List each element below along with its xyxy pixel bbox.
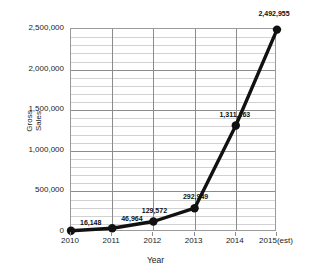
y-axis-title: GrossSales (25, 99, 43, 143)
y-axis-tick-label: 500,000 (35, 186, 64, 194)
data-point-marker (190, 204, 198, 212)
x-axis-tick-mark (276, 232, 277, 236)
gridline-minor (71, 224, 275, 225)
gridline-minor (71, 102, 275, 103)
gridline-major (71, 191, 275, 192)
x-axis-tick-label: 2010 (61, 236, 79, 245)
data-point-label: 2,492,955 (258, 10, 289, 17)
data-point-marker (149, 217, 157, 225)
y-axis-tick-label: 1,000,000 (28, 146, 64, 154)
x-axis-tick-label: 2014 (226, 236, 244, 245)
data-point-marker (273, 25, 281, 33)
x-axis-tick-mark (235, 232, 236, 236)
gridline-minor (71, 118, 275, 119)
gridline-minor (71, 78, 275, 79)
x-axis-tick-mark (70, 232, 71, 236)
y-axis-title-line2: Sales (34, 111, 43, 131)
x-axis-tick-label: 2013 (185, 236, 203, 245)
x-axis-tick-label: 2011 (103, 236, 120, 245)
x-axis-tick-label: 2012 (143, 236, 161, 245)
gridline-minor (71, 86, 275, 87)
gridline-minor (71, 200, 275, 201)
gridline-minor (71, 167, 275, 168)
gridline-minor (71, 175, 275, 176)
gridline-major (71, 151, 275, 152)
gridline-minor (71, 135, 275, 136)
data-point-marker (108, 224, 116, 232)
data-point-label: 292,949 (183, 193, 208, 200)
gridline-minor (71, 143, 275, 144)
data-point-marker (67, 227, 75, 235)
gridline-minor (71, 62, 275, 63)
y-axis-title-line1: Gross (25, 110, 34, 131)
gridline-minor (71, 94, 275, 95)
gridlines (71, 29, 275, 230)
gross-sales-line-chart: 0500,0001,000,0001,500,0002,000,0002,500… (0, 0, 311, 278)
x-axis-tick-mark (194, 232, 195, 236)
gridline-vertical (153, 29, 154, 230)
gridline-minor (71, 126, 275, 127)
x-axis-title: Year (0, 255, 311, 265)
data-point-label: 46,964 (121, 215, 142, 222)
y-axis-tick-label: 2,000,000 (28, 65, 64, 73)
gridline-vertical (236, 29, 237, 230)
data-point-label: 1,311,263 (219, 111, 250, 118)
gridline-vertical (112, 29, 113, 230)
gridline-minor (71, 216, 275, 217)
x-axis-tick-mark (152, 232, 153, 236)
gridline-minor (71, 159, 275, 160)
y-axis-tick-label: 0 (60, 227, 64, 235)
x-axis-tick-label: 2015(est) (259, 236, 293, 245)
data-point-label: 16,148 (80, 219, 101, 226)
gridline-minor (71, 37, 275, 38)
series-layer (71, 29, 275, 230)
data-point-marker (232, 121, 240, 129)
x-axis-tick-mark (111, 232, 112, 236)
plot-area (70, 28, 276, 231)
x-axis-tick-labels: 201020112012201320142015(est) (0, 236, 311, 250)
gross-sales-series (71, 29, 277, 232)
gridline-minor (71, 53, 275, 54)
y-axis-tick-label: 2,500,000 (28, 24, 64, 32)
gridline-minor (71, 208, 275, 209)
data-point-label: 129,572 (142, 207, 167, 214)
gridline-minor (71, 45, 275, 46)
gridline-major (71, 70, 275, 71)
gridline-minor (71, 183, 275, 184)
